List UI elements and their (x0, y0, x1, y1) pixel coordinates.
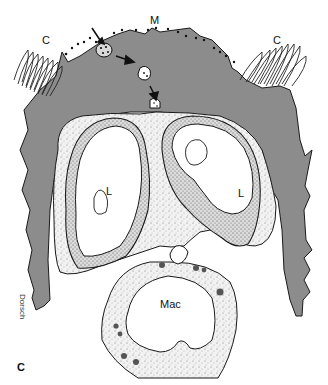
diagram-figure: Dorsch C C M L L Mac C (0, 0, 328, 385)
label-microvilli: M (150, 15, 159, 26)
cilia-right (240, 44, 306, 86)
artist-signature: Dorsch (18, 294, 27, 319)
label-lysosome-left: L (106, 186, 112, 197)
label-macrophage: Mac (160, 299, 181, 310)
label-cilia-left: C (42, 35, 50, 46)
label-lysosome-right: L (238, 188, 244, 199)
label-cilia-right: C (273, 35, 281, 46)
panel-letter: C (17, 362, 25, 373)
